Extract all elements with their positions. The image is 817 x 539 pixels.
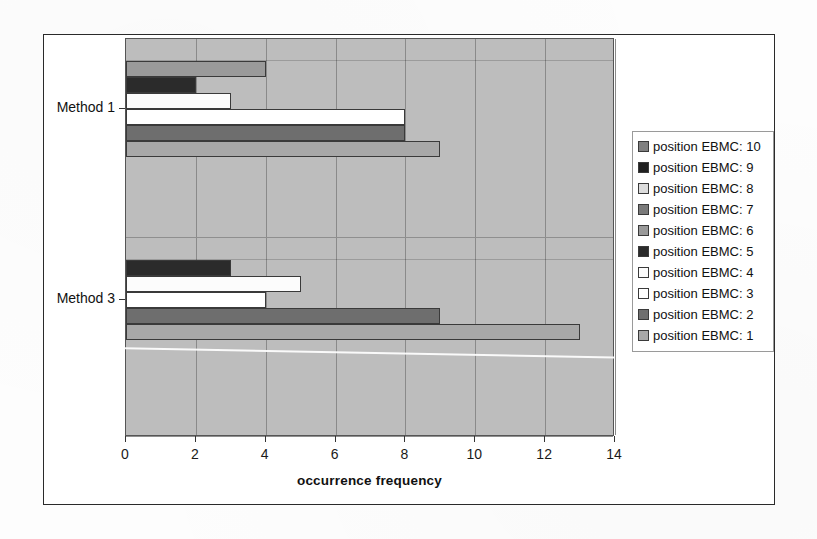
legend-item-label: position EBMC: 6 [653, 224, 753, 237]
legend-swatch-icon [638, 141, 649, 152]
x-tick-label: 10 [454, 446, 494, 462]
x-axis-title: occurrence frequency [125, 473, 614, 488]
x-tick-10 [474, 436, 475, 442]
x-tick-label: 12 [524, 446, 564, 462]
x-tick-2 [195, 436, 196, 442]
legend-item: position EBMC: 7 [638, 199, 768, 220]
legend-swatch-icon [638, 204, 649, 215]
bar [126, 93, 231, 109]
bar [126, 324, 580, 340]
y-category-label: Method 3 [25, 290, 115, 306]
legend-item: position EBMC: 8 [638, 178, 768, 199]
legend-swatch-icon [638, 183, 649, 194]
legend-item: position EBMC: 6 [638, 220, 768, 241]
bar [126, 260, 231, 276]
x-tick-label: 14 [594, 446, 634, 462]
group-separator [126, 436, 613, 437]
bar [126, 141, 440, 157]
x-tick-12 [544, 436, 545, 442]
legend-item-label: position EBMC: 5 [653, 245, 753, 258]
legend-item-label: position EBMC: 8 [653, 182, 753, 195]
legend-item-label: position EBMC: 1 [653, 329, 753, 342]
bar [126, 276, 301, 292]
x-tick-14 [614, 436, 615, 442]
x-tick-0 [125, 436, 126, 442]
legend-swatch-icon [638, 330, 649, 341]
x-tick-label: 4 [245, 446, 285, 462]
legend-item-label: position EBMC: 10 [653, 140, 761, 153]
group-separator [126, 237, 613, 238]
legend-swatch-icon [638, 288, 649, 299]
x-tick-label: 6 [315, 446, 355, 462]
bar [126, 61, 266, 77]
legend-item: position EBMC: 5 [638, 241, 768, 262]
legend-item: position EBMC: 2 [638, 304, 768, 325]
x-tick-label: 8 [384, 446, 424, 462]
legend-item-label: position EBMC: 9 [653, 161, 753, 174]
bar [126, 292, 266, 308]
legend-item-label: position EBMC: 3 [653, 287, 753, 300]
legend: position EBMC: 10position EBMC: 9positio… [632, 131, 774, 352]
y-tick [119, 108, 125, 109]
legend-swatch-icon [638, 267, 649, 278]
legend-item-label: position EBMC: 4 [653, 266, 753, 279]
bar [126, 77, 196, 93]
gridline-x-14 [615, 39, 616, 435]
x-tick-label: 2 [175, 446, 215, 462]
bar [126, 109, 405, 125]
legend-swatch-icon [638, 309, 649, 320]
legend-item: position EBMC: 4 [638, 262, 768, 283]
y-category-label: Method 1 [25, 99, 115, 115]
y-tick [119, 299, 125, 300]
x-tick-8 [404, 436, 405, 442]
x-tick-6 [335, 436, 336, 442]
legend-item: position EBMC: 1 [638, 325, 768, 346]
scanned-figure-page: 02468101214 occurrence frequency Method … [0, 0, 817, 539]
legend-swatch-icon [638, 162, 649, 173]
legend-item-label: position EBMC: 2 [653, 308, 753, 321]
legend-swatch-icon [638, 246, 649, 257]
legend-item-label: position EBMC: 7 [653, 203, 753, 216]
bar [126, 125, 405, 141]
legend-item: position EBMC: 3 [638, 283, 768, 304]
x-tick-4 [265, 436, 266, 442]
x-tick-label: 0 [105, 446, 145, 462]
legend-swatch-icon [638, 225, 649, 236]
legend-item: position EBMC: 9 [638, 157, 768, 178]
plot-area [125, 38, 614, 436]
legend-item: position EBMC: 10 [638, 136, 768, 157]
bar [126, 308, 440, 324]
